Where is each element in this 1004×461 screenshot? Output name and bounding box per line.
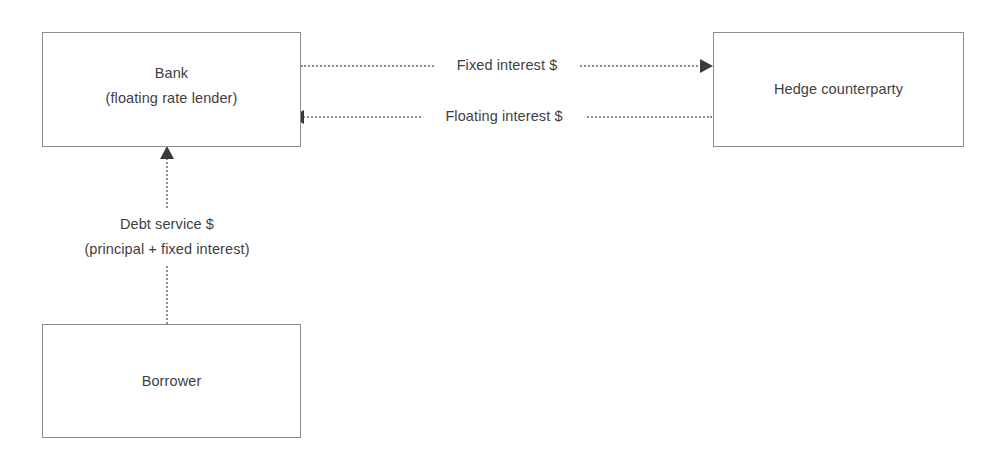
arrow-right-icon: [700, 59, 713, 73]
node-bank-label: Bank (floating rate lender): [106, 61, 238, 111]
node-borrower[interactable]: Borrower: [42, 324, 301, 438]
arrow-up-icon: [160, 146, 174, 159]
edge-label-floating-interest: Floating interest $: [422, 104, 586, 129]
node-bank[interactable]: Bank (floating rate lender): [42, 32, 301, 147]
edge-label-debt-service: Debt service $ (principal + fixed intere…: [47, 210, 287, 264]
node-hedge-counterparty-label: Hedge counterparty: [774, 77, 903, 102]
edge-label-fixed-interest: Fixed interest $: [434, 53, 580, 78]
node-borrower-label: Borrower: [142, 369, 202, 394]
node-hedge-counterparty[interactable]: Hedge counterparty: [713, 32, 964, 147]
diagram-canvas: Fixed interest $ Floating interest $ Deb…: [0, 0, 1004, 461]
